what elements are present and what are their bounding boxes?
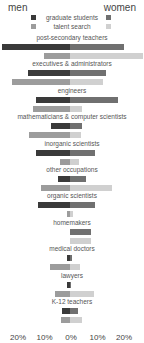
category-label: post-secondary teachers xyxy=(0,34,144,42)
category-label: other occupations xyxy=(0,166,144,174)
graduate-men-bar xyxy=(58,176,70,182)
category-label: executives & administrators xyxy=(0,60,144,68)
graduate-women-bar xyxy=(70,44,124,50)
category-group: lawyers xyxy=(0,272,144,298)
category-label: lawyers xyxy=(0,272,144,280)
talent-women-bar xyxy=(70,211,73,217)
talent-women-bar xyxy=(70,159,79,165)
category-label: medical doctors xyxy=(0,245,144,253)
legend-label: talent search xyxy=(0,23,144,31)
men-header: men xyxy=(8,2,27,13)
category-group: organic scientists xyxy=(0,192,144,218)
category-group: K-12 teachers xyxy=(0,298,144,324)
legend-swatch-grad-women xyxy=(106,15,111,20)
category-group: medical doctors xyxy=(0,245,144,271)
graduate-men-bar xyxy=(51,123,70,129)
category-group: engineers xyxy=(0,87,144,113)
talent-women-bar xyxy=(70,185,112,191)
talent-men-bar xyxy=(12,79,70,85)
talent-women-bar xyxy=(70,132,81,138)
talent-women-bar xyxy=(70,264,80,270)
category-group: mathematicians & computer scientists xyxy=(0,113,144,139)
category-label: mathematicians & computer scientists xyxy=(0,113,144,121)
category-label: K-12 teachers xyxy=(0,298,144,306)
category-group: inorganic scientists xyxy=(0,140,144,166)
talent-women-bar xyxy=(70,238,91,244)
category-group: post-secondary teachers xyxy=(0,34,144,60)
axis-tick-label: 0% xyxy=(65,333,77,342)
category-group: homemakers xyxy=(0,219,144,245)
graduate-women-bar xyxy=(70,123,82,129)
legend-swatch-talent-women xyxy=(106,24,111,29)
talent-women-bar xyxy=(70,291,94,297)
legend-graduate-students: graduate students xyxy=(0,14,144,22)
category-group: executives & administrators xyxy=(0,60,144,86)
graduate-women-bar xyxy=(70,282,71,288)
category-label: engineers xyxy=(0,87,144,95)
legend-label: graduate students xyxy=(0,14,144,22)
graduate-men-bar xyxy=(36,150,70,156)
diverging-bar-chart: post-secondary teachersexecutives & admi… xyxy=(0,34,144,324)
women-header: women xyxy=(104,2,136,13)
axis-tick-label: 10% xyxy=(36,333,52,342)
graduate-men-bar xyxy=(2,44,70,50)
talent-men-bar xyxy=(41,185,70,191)
talent-men-bar xyxy=(60,159,70,165)
graduate-women-bar xyxy=(70,150,95,156)
graduate-men-bar xyxy=(62,308,70,314)
graduate-women-bar xyxy=(70,202,95,208)
talent-men-bar xyxy=(55,291,70,297)
graduate-women-bar xyxy=(70,229,91,235)
axis-tick-label: 20% xyxy=(10,333,26,342)
graduate-men-bar xyxy=(38,202,70,208)
graduate-women-bar xyxy=(70,308,78,314)
axis-tick-label: 20% xyxy=(116,333,132,342)
category-label: organic scientists xyxy=(0,192,144,200)
category-group: other occupations xyxy=(0,166,144,192)
talent-men-bar xyxy=(50,264,70,270)
talent-men-bar xyxy=(44,53,71,59)
axis-tick-label: 10% xyxy=(89,333,105,342)
talent-women-bar xyxy=(70,106,82,112)
category-label: inorganic scientists xyxy=(0,140,144,148)
graduate-women-bar xyxy=(70,255,72,261)
talent-women-bar xyxy=(70,53,143,59)
talent-men-bar xyxy=(33,106,70,112)
graduate-men-bar xyxy=(28,70,70,76)
graduate-women-bar xyxy=(70,70,106,76)
category-label: homemakers xyxy=(0,219,144,227)
talent-men-bar xyxy=(61,317,70,323)
graduate-men-bar xyxy=(36,97,70,103)
legend-talent-search: talent search xyxy=(0,23,144,31)
graduate-women-bar xyxy=(70,97,118,103)
talent-men-bar xyxy=(29,132,70,138)
talent-women-bar xyxy=(70,317,82,323)
talent-women-bar xyxy=(70,79,103,85)
graduate-women-bar xyxy=(70,176,86,182)
